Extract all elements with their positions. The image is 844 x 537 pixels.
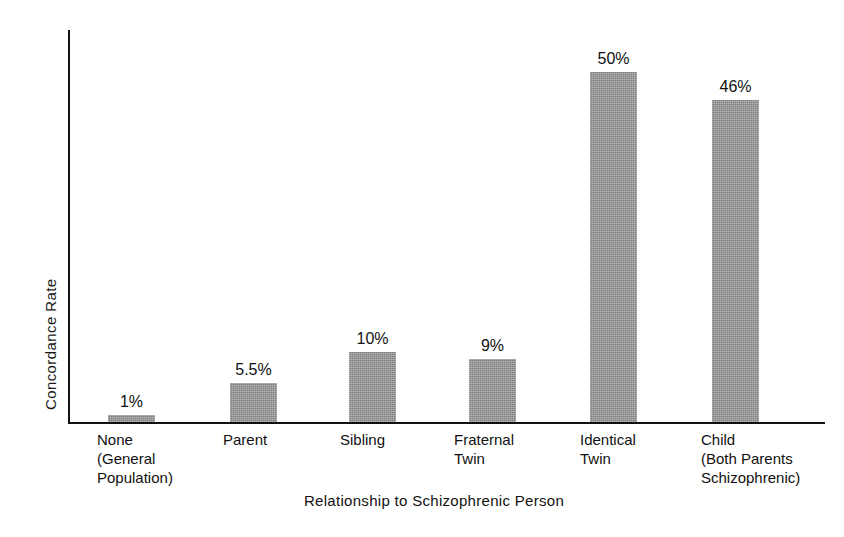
x-tick-fraternal-twin: Fraternal Twin xyxy=(454,430,589,468)
y-axis-title: Concordance Rate xyxy=(40,110,62,410)
bar-fraternal-twin xyxy=(469,359,516,422)
x-tick-identical-twin: Identical Twin xyxy=(580,430,715,468)
x-tick-child-both-parents: Child (Both Parents Schizophrenic) xyxy=(701,430,836,487)
bar-parent xyxy=(230,383,277,422)
x-tick-parent: Parent xyxy=(223,430,358,449)
bar-group-sibling: 10% xyxy=(309,30,429,422)
bar-chart-figure: Concordance Rate 1% 5.5% 10% 9% 50% 46% xyxy=(0,0,844,537)
bar-value-label: 50% xyxy=(590,50,637,68)
bar-none xyxy=(108,415,155,422)
bar-identical-twin xyxy=(590,72,637,422)
x-axis-line xyxy=(68,422,825,424)
x-axis-title: Relationship to Schizophrenic Person xyxy=(0,492,844,509)
bar-value-label: 10% xyxy=(349,330,396,348)
bar-value-label: 46% xyxy=(712,78,759,96)
bar-value-label: 9% xyxy=(469,337,516,355)
bar-sibling xyxy=(349,352,396,422)
bar-group-fraternal-twin: 9% xyxy=(429,30,549,422)
bar-value-label: 1% xyxy=(108,393,155,411)
bar-group-child-both-parents: 46% xyxy=(672,30,792,422)
plot-area: 1% 5.5% 10% 9% 50% 46% xyxy=(68,30,825,422)
x-axis-tick-labels: None (General Population) Parent Sibling… xyxy=(68,430,825,500)
x-tick-none: None (General Population) xyxy=(97,430,232,487)
bar-group-parent: 5.5% xyxy=(190,30,310,422)
bar-value-label: 5.5% xyxy=(230,361,277,379)
bar-group-identical-twin: 50% xyxy=(550,30,670,422)
bar-group-none: 1% xyxy=(68,30,188,422)
bar-child-both-parents xyxy=(712,100,759,422)
